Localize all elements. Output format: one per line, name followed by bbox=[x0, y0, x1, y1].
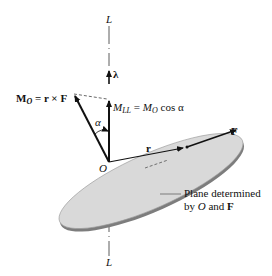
force-label: F bbox=[231, 126, 238, 137]
angle-label: α bbox=[95, 117, 101, 128]
projection-dashed-line bbox=[74, 94, 107, 99]
position-vector-label: r bbox=[146, 143, 151, 154]
moment-label: MO = r × F bbox=[16, 93, 67, 106]
plane-disk bbox=[49, 116, 255, 250]
caption-mid: and bbox=[206, 200, 227, 212]
caption-prefix: by bbox=[184, 200, 198, 212]
axis-label-bottom: L bbox=[106, 257, 112, 268]
moment-about-axis-diagram: L λ MO = r × F MLL = MO cos α α O r F Pl… bbox=[0, 0, 272, 276]
plane-caption-line1: Plane determined bbox=[184, 188, 261, 199]
moment-vector bbox=[75, 96, 109, 162]
moment-symbol: M bbox=[16, 92, 26, 104]
origin-label: O bbox=[99, 163, 107, 174]
moment-rest: = r × F bbox=[32, 92, 67, 104]
projection-left-symbol: M bbox=[113, 101, 122, 113]
lambda-label: λ bbox=[113, 69, 118, 80]
axis-label-top: L bbox=[106, 14, 112, 25]
caption-F: F bbox=[227, 200, 234, 212]
projection-right-symbol: M bbox=[143, 101, 152, 113]
projection-equals: = bbox=[131, 101, 143, 113]
projection-rest: cos α bbox=[158, 101, 184, 113]
force-application-point bbox=[186, 146, 189, 149]
plane-caption-line2: by O and F bbox=[184, 201, 234, 212]
diagram-graphics bbox=[0, 0, 272, 276]
projection-left-subscript: LL bbox=[122, 106, 131, 115]
caption-O: O bbox=[198, 200, 206, 212]
angle-arc bbox=[95, 130, 108, 134]
projection-label: MLL = MO cos α bbox=[113, 102, 184, 115]
